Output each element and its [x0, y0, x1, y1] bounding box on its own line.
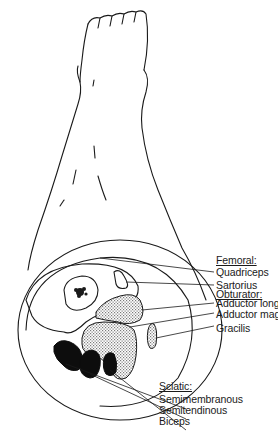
label-biceps: Biceps	[159, 416, 190, 427]
femoral-header: Femoral:	[216, 255, 257, 266]
label-adductor-magnus: Adductor magnus	[216, 309, 278, 320]
sartorius-region	[114, 271, 128, 289]
label-quadriceps: Quadriceps	[216, 267, 269, 278]
leg-cross-section-diagram	[0, 0, 278, 434]
knee-detail-marks	[60, 80, 106, 206]
lower-leg-outline	[28, 66, 206, 300]
adductor-longus-region	[96, 295, 143, 324]
label-gracilis: Gracilis	[216, 323, 250, 334]
foot-outline	[80, 11, 148, 82]
semimembranous-region	[54, 341, 83, 371]
bone-marrow	[74, 287, 88, 298]
gracilis-region	[147, 324, 156, 349]
sciatic-header: Sciatic:	[159, 381, 192, 392]
biceps-region	[103, 353, 116, 376]
